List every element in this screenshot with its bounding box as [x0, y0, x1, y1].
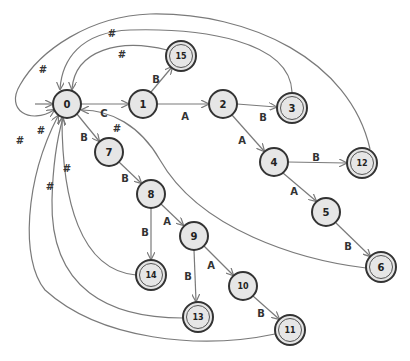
svg-text:6: 6 — [378, 262, 385, 273]
svg-text:7: 7 — [106, 147, 113, 158]
state-12-accepting: 12 — [347, 148, 377, 178]
edge-label-13-0: # — [46, 181, 54, 192]
svg-text:2: 2 — [220, 99, 227, 110]
state-6-accepting: 6 — [366, 252, 396, 282]
state-3-accepting: 3 — [277, 93, 307, 123]
svg-text:4: 4 — [271, 157, 278, 168]
svg-text:10: 10 — [237, 282, 249, 291]
edge-11-0 — [29, 116, 275, 341]
state-1: 1 — [129, 90, 157, 118]
svg-text:12: 12 — [356, 159, 367, 168]
edge-label-0-0: # — [37, 125, 45, 136]
svg-text:13: 13 — [192, 313, 203, 322]
diagram-canvas: C B A B A B A B B B B A B A B # # # # # … — [0, 0, 410, 361]
edge-6-0 — [82, 110, 366, 268]
edge-label-8-14: B — [141, 227, 149, 238]
edge-label-1-2: A — [181, 111, 189, 122]
edge-label-14-0: # — [63, 163, 71, 174]
svg-text:0: 0 — [64, 99, 71, 110]
svg-text:9: 9 — [191, 231, 198, 242]
edge-label-2-3: B — [259, 112, 267, 123]
svg-text:15: 15 — [175, 52, 187, 61]
state-13-accepting: 13 — [183, 302, 213, 332]
edge-label-10-11: B — [257, 308, 265, 319]
state-14-accepting: 14 — [136, 260, 166, 290]
edge-label-1-15: B — [152, 74, 160, 85]
edge-label-4-5: A — [290, 186, 298, 197]
svg-text:1: 1 — [140, 99, 147, 110]
edge-label-11-0: # — [16, 135, 24, 146]
svg-text:8: 8 — [148, 189, 155, 200]
edge-label-6-0: # — [113, 123, 121, 134]
state-diagram: C B A B A B A B B B B A B A B # # # # # … — [0, 0, 410, 361]
edge-label-2-4: A — [238, 135, 246, 146]
edge-label-0-1: C — [100, 108, 107, 119]
state-11-accepting: 11 — [275, 315, 305, 345]
svg-text:14: 14 — [145, 271, 157, 280]
svg-text:3: 3 — [289, 103, 296, 114]
svg-text:5: 5 — [323, 207, 330, 218]
state-10: 10 — [229, 272, 257, 300]
edge-5-6 — [336, 223, 370, 256]
state-5: 5 — [312, 198, 340, 226]
edge-label-0-7: B — [80, 132, 88, 143]
edge-9-13 — [194, 250, 196, 301]
edge-label-9-13: B — [184, 271, 192, 282]
edge-label-3-0: # — [108, 28, 116, 39]
state-2: 2 — [209, 90, 237, 118]
state-15-accepting: 15 — [166, 41, 196, 71]
edge-label-4-12: B — [312, 152, 320, 163]
edge-label-9-10: A — [207, 260, 215, 271]
edge-label-5-6: B — [344, 241, 352, 252]
edge-2-3 — [237, 104, 276, 107]
state-8: 8 — [137, 180, 165, 208]
edge-label-15-0: # — [118, 49, 126, 60]
state-4: 4 — [260, 148, 288, 176]
svg-text:11: 11 — [284, 326, 296, 335]
state-7: 7 — [95, 138, 123, 166]
edge-label-7-8: B — [121, 173, 129, 184]
edge-label-12-0: # — [39, 64, 47, 75]
edge-12-0 — [15, 14, 370, 149]
edge-4-5 — [283, 173, 316, 201]
state-0: 0 — [53, 90, 81, 118]
state-9: 9 — [180, 222, 208, 250]
edge-label-8-9: A — [163, 216, 171, 227]
